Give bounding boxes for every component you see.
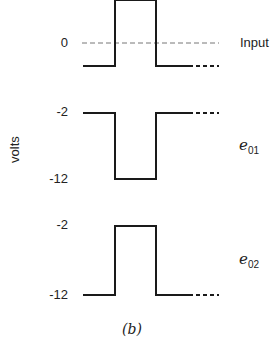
input-signal-label: Input xyxy=(240,35,269,50)
e01-waveform xyxy=(83,113,189,179)
e01-low-tick-label: -12 xyxy=(28,171,68,186)
e01-high-tick-label: -2 xyxy=(28,104,68,119)
e01-label-subscript: 01 xyxy=(248,145,259,156)
e02-signal-label: e02 xyxy=(239,250,259,270)
waveform-figure: 0 Input -2 -12 e01 -2 -12 e02 volts (b) xyxy=(0,0,278,344)
e02-waveform xyxy=(83,226,189,295)
e02-label-subscript: 02 xyxy=(248,259,259,270)
input-zero-tick-label: 0 xyxy=(28,35,68,50)
input-waveform xyxy=(83,0,189,66)
figure-caption: (b) xyxy=(122,321,142,337)
e01-signal-label: e01 xyxy=(239,136,259,156)
e02-label-main: e xyxy=(239,250,248,268)
y-axis-label: volts xyxy=(7,130,22,170)
e02-low-tick-label: -12 xyxy=(28,287,68,302)
e02-high-tick-label: -2 xyxy=(28,217,68,232)
e01-label-main: e xyxy=(239,136,248,154)
